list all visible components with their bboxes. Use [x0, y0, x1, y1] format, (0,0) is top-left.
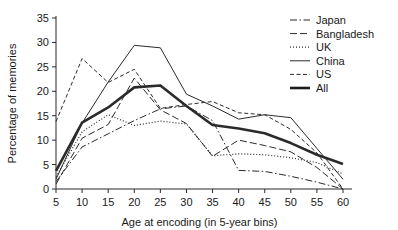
x-axis-tick-label: 25	[154, 196, 166, 208]
x-axis-title: Age at encoding (in 5-year bins)	[122, 216, 278, 228]
chart-canvas: 05101520253035 51015202530354045505560 J…	[0, 0, 398, 230]
legend-label-japan[interactable]: Japan	[316, 14, 346, 26]
y-axis-tick-label: 15	[37, 110, 49, 122]
y-axis-tick-label: 0	[43, 183, 49, 195]
legend-label-uk[interactable]: UK	[316, 41, 332, 53]
x-axis-tick-group: 51015202530354045505560	[53, 189, 349, 208]
legend-label-us[interactable]: US	[316, 68, 331, 80]
x-axis-tick-label: 60	[337, 196, 349, 208]
y-axis-tick-label: 20	[37, 85, 49, 97]
legend-label-all[interactable]: All	[316, 82, 328, 94]
x-axis-tick-label: 45	[259, 196, 271, 208]
data-series-group	[56, 45, 343, 189]
y-axis-tick-label: 35	[37, 12, 49, 24]
x-axis-tick-label: 5	[53, 196, 59, 208]
x-axis-tick-label: 20	[128, 196, 140, 208]
legend-label-china[interactable]: China	[316, 55, 346, 67]
chart-legend: JapanBangladeshUKChinaUSAll	[290, 14, 374, 94]
x-axis-tick-label: 50	[285, 196, 297, 208]
x-axis-tick-label: 30	[180, 196, 192, 208]
x-axis-tick-label: 10	[76, 196, 88, 208]
x-axis-tick-label: 15	[102, 196, 114, 208]
y-axis-tick-group: 05101520253035	[37, 12, 56, 195]
y-axis-tick-label: 25	[37, 61, 49, 73]
y-axis-tick-label: 10	[37, 134, 49, 146]
memory-percentage-line-chart: 05101520253035 51015202530354045505560 J…	[0, 0, 398, 230]
series-line-us	[56, 59, 343, 189]
legend-label-bangladesh[interactable]: Bangladesh	[316, 28, 374, 40]
y-axis-tick-label: 30	[37, 36, 49, 48]
x-axis-tick-label: 35	[206, 196, 218, 208]
series-line-bangladesh	[56, 78, 343, 189]
y-axis-tick-label: 5	[43, 159, 49, 171]
x-axis-tick-label: 40	[233, 196, 245, 208]
y-axis-title: Percentage of memories	[6, 43, 18, 163]
x-axis-tick-label: 55	[311, 196, 323, 208]
